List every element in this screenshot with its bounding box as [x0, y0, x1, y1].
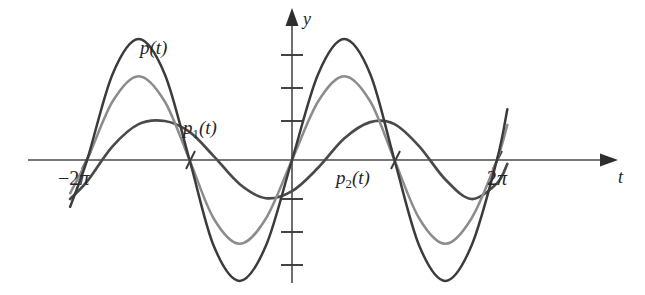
plot-svg: [0, 0, 645, 295]
curve-label-p1: p1(t): [183, 118, 217, 141]
x-axis-label: t: [618, 168, 623, 186]
figure-canvas: p(t) p1(t) p2(t) t y −2π 2π: [0, 0, 645, 295]
curve-label-p2: p2(t): [336, 168, 370, 191]
y-axis-arrow-icon: [286, 8, 299, 26]
y-axis-label: y: [303, 10, 311, 28]
x-tick-label-2pi: 2π: [487, 168, 507, 188]
x-axis-group: [28, 154, 618, 167]
curve-label-p1-text: p1(t): [183, 117, 217, 138]
x-tick-label-neg-2pi: −2π: [58, 168, 89, 188]
curve-label-p: p(t): [140, 38, 167, 57]
x-axis-arrow-icon: [600, 154, 618, 167]
curve-label-p2-text: p2(t): [336, 167, 370, 188]
curve-label-p-text: p(t): [140, 37, 167, 58]
